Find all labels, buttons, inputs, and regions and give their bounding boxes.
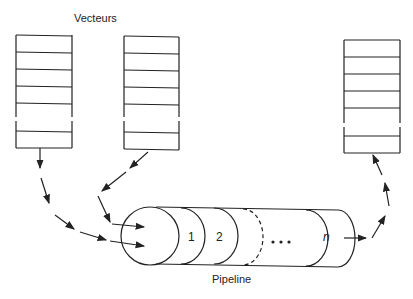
stage-1-label: 1 bbox=[188, 230, 195, 244]
stage-2-label: 2 bbox=[216, 230, 223, 244]
stage-n-label: n bbox=[323, 230, 330, 244]
output-vector bbox=[344, 40, 400, 153]
arrows-vector-2 bbox=[98, 152, 148, 227]
input-vector-2 bbox=[124, 36, 179, 150]
pipeline-diagram bbox=[0, 0, 413, 299]
input-vector-1 bbox=[16, 35, 72, 148]
dashed-stage-boundary bbox=[243, 209, 263, 265]
pipeline-cylinder bbox=[121, 207, 355, 267]
ellipsis-dots bbox=[271, 240, 290, 243]
arrows-vector-1 bbox=[40, 148, 144, 246]
arrows-output bbox=[344, 155, 389, 238]
